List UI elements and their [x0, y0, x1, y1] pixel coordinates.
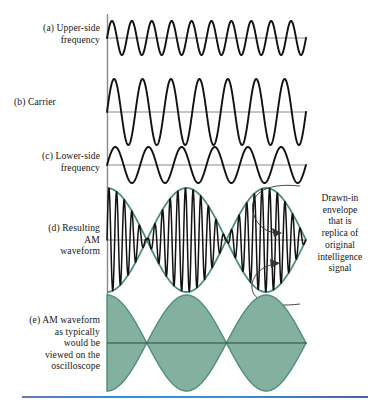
panel-label-a-line-1: (a) Upper-side [14, 22, 100, 34]
annotation-line-3: that is [304, 215, 376, 227]
panel-a-waveform [107, 21, 306, 55]
arrowhead-upper-icon [272, 228, 282, 237]
panel-label-c-line-1: (c) Lower-side [14, 150, 100, 162]
bottom-divider-rule [22, 396, 368, 398]
annotation-line-5: original [304, 239, 376, 251]
panel-label-d: (d) Resulting AM waveform [14, 222, 100, 257]
panel-label-b-line-1: (b) Carrier [14, 96, 100, 108]
panel-c-plot [107, 147, 307, 183]
panel-label-a-line-2: frequency [14, 34, 100, 46]
panel-label-c: (c) Lower-side frequency [14, 150, 100, 173]
panel-label-d-line-1: (d) Resulting [14, 222, 100, 234]
panel-label-a: (a) Upper-side frequency [14, 22, 100, 45]
panel-label-d-line-3: waveform [14, 245, 100, 257]
annotation-drawn-in-envelope: Drawn-in envelope that is replica of ori… [304, 192, 376, 274]
panel-d-plot [107, 188, 307, 292]
panel-label-e-line-1: (e) AM waveform [6, 314, 100, 326]
panel-e-plot [107, 295, 307, 391]
panel-label-b: (b) Carrier [14, 96, 100, 108]
panel-b-plot [107, 79, 307, 145]
panel-label-e: (e) AM waveform as typically would be vi… [6, 314, 100, 372]
panel-label-d-line-2: AM [14, 234, 100, 246]
annotation-line-1: Drawn-in [304, 192, 376, 204]
panel-label-c-line-2: frequency [14, 162, 100, 174]
annotation-line-4: replica of [304, 227, 376, 239]
panel-label-e-line-2: as typically [6, 326, 100, 338]
panel-a-plot [107, 21, 307, 55]
annotation-line-7: signal [304, 262, 376, 274]
annotation-line-6: intelligence [304, 251, 376, 263]
panel-label-e-line-4: viewed on the [6, 349, 100, 361]
panel-label-e-line-3: would be [6, 337, 100, 349]
panel-label-e-line-5: oscilloscope [6, 360, 100, 372]
am-waveform-figure: (a) Upper-side frequency (b) Carrier (c)… [0, 0, 379, 409]
annotation-line-2: envelope [304, 204, 376, 216]
